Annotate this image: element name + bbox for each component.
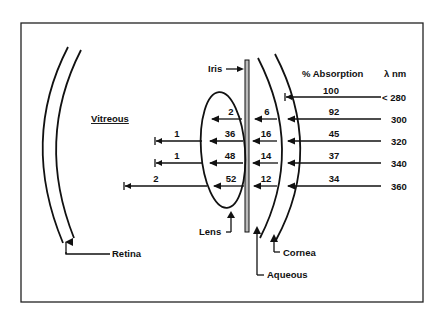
- svg-text:6: 6: [264, 106, 269, 117]
- svg-text:1: 1: [174, 128, 180, 139]
- svg-text:300: 300: [391, 114, 407, 125]
- svg-text:< 280: < 280: [382, 92, 406, 103]
- iris-label: Iris: [208, 63, 222, 74]
- svg-text:340: 340: [391, 158, 407, 169]
- absorption-header: % Absorption: [302, 68, 364, 79]
- svg-text:52: 52: [226, 173, 237, 184]
- row-280: 100 < 280: [285, 85, 406, 103]
- svg-text:14: 14: [261, 150, 272, 161]
- aqueous-pointer-head: [253, 226, 261, 234]
- svg-text:100: 100: [323, 85, 339, 96]
- svg-text:34: 34: [329, 173, 340, 184]
- svg-text:36: 36: [225, 128, 236, 139]
- row-360: 34 360 12 52 2: [124, 173, 407, 192]
- aqueous-label: Aqueous: [267, 269, 308, 280]
- svg-text:1: 1: [174, 150, 180, 161]
- eye-uv-absorption-diagram: Retina Vitreous Iris Lens Cornea Aqueous…: [0, 0, 446, 322]
- retina-shape: [43, 47, 81, 243]
- svg-text:37: 37: [329, 150, 340, 161]
- svg-text:45: 45: [329, 128, 340, 139]
- retina-pointer: [66, 242, 110, 254]
- retina-label: Retina: [112, 248, 142, 259]
- svg-text:12: 12: [261, 173, 272, 184]
- lens-shape: [197, 91, 249, 210]
- svg-text:360: 360: [391, 181, 407, 192]
- svg-text:2: 2: [228, 106, 233, 117]
- svg-text:16: 16: [261, 128, 272, 139]
- svg-text:48: 48: [225, 150, 236, 161]
- cornea-label: Cornea: [283, 247, 316, 258]
- svg-text:2: 2: [153, 173, 158, 184]
- svg-text:92: 92: [329, 106, 340, 117]
- svg-text:320: 320: [391, 136, 407, 147]
- iris-pointer-head: [237, 66, 244, 72]
- cornea-shape: [258, 54, 300, 240]
- lens-label: Lens: [199, 226, 221, 237]
- lens-pointer-head: [227, 211, 235, 218]
- wavelength-header: λ nm: [384, 68, 406, 79]
- vitreous-label: Vitreous: [91, 113, 129, 124]
